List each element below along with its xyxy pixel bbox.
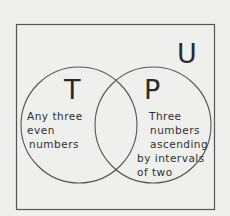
- set-p-description-line: by intervals: [137, 152, 205, 164]
- universe-label: U: [177, 38, 197, 69]
- set-t-description-line: Any three: [27, 110, 83, 122]
- venn-diagram: U T P Any three even numbers Three numbe…: [0, 0, 230, 216]
- set-p-description-line: numbers: [150, 124, 200, 136]
- set-t-description-line: even: [27, 124, 55, 136]
- set-p-description-line: Three: [148, 110, 182, 122]
- venn-svg: U T P Any three even numbers Three numbe…: [0, 0, 230, 216]
- set-p-description-line: ascending: [150, 138, 208, 150]
- set-p-label: P: [144, 74, 160, 105]
- set-p-description-line: of two: [137, 166, 173, 178]
- set-t-description-line: numbers: [29, 138, 79, 150]
- set-t-label: T: [63, 74, 81, 105]
